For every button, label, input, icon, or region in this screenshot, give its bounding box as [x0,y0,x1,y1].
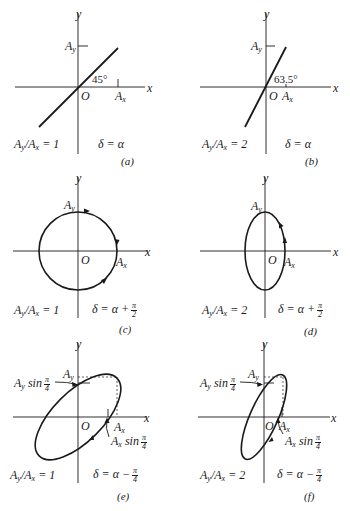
panel-b-axes [200,13,331,154]
panel-c-y-label: y [76,172,81,184]
panel-c-ratio: Ay/Ax = 1 [14,304,59,320]
panel-b-angle-label: 63.5° [274,73,298,85]
panel-f-delta: δ = α −π4 [277,467,322,484]
panel-d-ay-label: Ay [251,200,262,216]
panel-d-ax-label: Ax [284,256,295,272]
panel-f-x-label: x [331,412,336,424]
panel-f-ratio: Ay/Ax = 2 [200,469,245,485]
panel-a-ay-label: Ay [65,40,76,56]
panel-c-ay-label: Ay [64,199,75,215]
panel-e-y-label: y [76,338,81,350]
panel-b-delta: δ = α [285,138,311,150]
panel-d-ratio: Ay/Ax = 2 [202,304,247,320]
panel-f-axes [198,343,330,483]
panel-c-delta: δ = α +π2 [92,302,137,319]
panel-f-caption: (f) [304,490,314,502]
panel-e-axes [13,343,147,483]
panel-f-ay-label: Ay [248,368,259,384]
panel-e-ratio: Ay/Ax = 1 [10,469,55,485]
panel-b-origin-label: O [269,90,278,102]
panel-a-ax-label: Ax [115,90,126,106]
panel-e-x-label: x [144,412,149,424]
panel-a-delta: δ = α [98,138,124,150]
panel-c-caption: (c) [119,323,131,335]
panel-a-polarization-line [39,48,118,127]
panel-f-arrowheads [257,382,281,442]
panel-a-ratio: Ay/Ax = 1 [14,138,59,154]
panel-f-origin-label: O [265,420,274,432]
panel-a-axes [15,13,145,154]
panel-f-annotation-arrows [240,382,283,434]
panel-c-x-label: x [145,246,150,258]
panel-e-ay-sin-annotation: Ay sinπ4 [14,376,50,393]
panel-f-y-label: y [262,338,267,350]
panel-a-caption: (a) [121,155,134,167]
panel-a-angle-label: 45° [92,73,107,85]
panel-d-axes [200,177,331,318]
panel-e-delta: δ = α −π4 [93,467,138,484]
panel-d-delta: δ = α +π2 [278,302,323,319]
panel-d-caption: (d) [304,325,317,337]
panel-b-y-label: y [264,8,269,20]
panel-f-ay-sin-annotation: Ay sinπ4 [200,376,236,393]
panel-e-ay-label: Ay [63,368,74,384]
panel-c-axes [13,177,148,318]
panel-a-x-label: x [147,82,152,94]
panel-e-origin-label: O [81,420,90,432]
panel-b-ratio: Ay/Ax = 2 [202,138,247,154]
panel-d-origin-label: O [268,254,277,266]
panel-e-caption: (e) [117,490,129,502]
panel-b-ay-label: Ay [251,40,262,56]
panel-a-origin-label: O [81,90,90,102]
panel-e-ax-sin-annotation: Ax sinπ4 [111,434,147,451]
panel-c-origin-label: O [81,254,90,266]
panel-d-y-label: y [263,172,268,184]
panel-c-ax-label: Ax [116,256,127,272]
panel-b-x-label: x [333,82,338,94]
panel-a-y-label: y [76,8,81,20]
panel-b-ax-label: Ax [282,90,293,106]
panel-b-caption: (b) [305,155,318,167]
panel-f-ax-sin-annotation: Ax sinπ4 [285,434,321,451]
panel-d-x-label: x [333,246,338,258]
